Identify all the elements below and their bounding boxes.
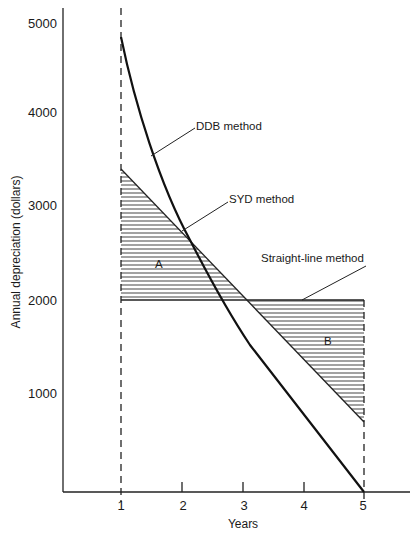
region-a-label: A	[155, 258, 163, 270]
y-tick-2000: 2000	[28, 293, 57, 308]
syd-label: SYD method	[229, 193, 294, 205]
straight-line-label: Straight-line method	[261, 252, 364, 264]
ddb-leader	[151, 128, 195, 156]
region-b-label: B	[324, 335, 332, 347]
x-tick-label-3: 3	[240, 498, 247, 513]
y-tick-4000: 4000	[28, 105, 57, 120]
y-tick-1000: 1000	[28, 386, 57, 401]
sl-leader	[302, 266, 366, 300]
depreciation-chart: DDB method SYD method Straight-line meth…	[0, 0, 418, 537]
y-tick-3000: 3000	[28, 198, 57, 213]
y-tick-5000: 5000	[28, 16, 57, 31]
syd-leader	[182, 202, 228, 231]
x-tick-label-5: 5	[359, 498, 366, 513]
x-tick-label-1: 1	[117, 498, 124, 513]
y-axis-label: Annual depreciation (dollars)	[9, 176, 23, 329]
x-tick-label-2: 2	[179, 498, 186, 513]
x-tick-label-4: 4	[300, 498, 307, 513]
x-axis-label: Years	[228, 517, 258, 531]
ddb-label: DDB method	[196, 120, 262, 132]
